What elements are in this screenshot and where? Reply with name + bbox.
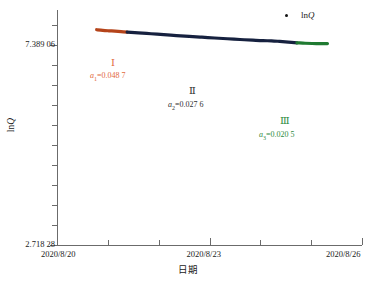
segment-1-slope-value: =0.048 7 — [97, 71, 126, 80]
series-segment-II — [127, 32, 297, 43]
x-tick-4 — [260, 240, 261, 245]
x-axis-line — [57, 245, 362, 246]
y-axis-title-variable: Q — [6, 118, 16, 125]
chart-container: 7.389 06 2.718 28 2020/8/20 2020/8/23 20… — [0, 0, 375, 284]
x-tick-1 — [108, 240, 109, 245]
x-tick-3 — [210, 238, 211, 245]
y-tick-8 — [52, 85, 57, 86]
segment-1-roman-numeral: Ⅰ — [111, 57, 115, 68]
x-tick-0 — [57, 238, 58, 245]
x-tick-5 — [311, 240, 312, 245]
legend: lnQ — [285, 10, 315, 20]
legend-label-variable: Q — [308, 10, 315, 20]
x-axis-title: 日期 — [0, 262, 375, 276]
y-tick-9 — [52, 65, 57, 66]
y-tick-6 — [52, 125, 57, 126]
y-tick-11 — [52, 25, 57, 26]
segment-3-slope-value: =0.020 5 — [266, 130, 295, 139]
x-tick-6 — [362, 238, 363, 245]
y-tick-1 — [52, 225, 57, 226]
x-tick-label-end: 2020/8/26 — [326, 249, 360, 259]
y-tick-3 — [52, 185, 57, 186]
y-tick-label-lower: 2.718 28 — [25, 239, 55, 249]
legend-marker-dot-icon — [285, 14, 288, 17]
y-axis-title-prefix: ln — [6, 125, 16, 132]
segment-3-roman-numeral: Ⅲ — [280, 115, 290, 126]
y-axis-line — [57, 10, 58, 246]
y-tick-4 — [52, 165, 57, 166]
segment-2-slope-label: a2=0.027 6 — [168, 100, 204, 111]
y-tick-2 — [52, 205, 57, 206]
segment-2-roman-numeral: Ⅱ — [189, 85, 196, 96]
x-tick-2 — [159, 240, 160, 245]
segment-3-slope-label: a3=0.020 5 — [259, 130, 295, 141]
x-tick-label-start: 2020/8/20 — [41, 249, 75, 259]
series-lnq — [97, 30, 328, 44]
series-segment-III — [297, 43, 328, 44]
segment-1-slope-label: a1=0.048 7 — [90, 71, 126, 82]
segment-2-slope-value: =0.027 6 — [175, 100, 204, 109]
legend-label: lnQ — [301, 10, 315, 20]
series-segment-I — [97, 30, 128, 32]
y-tick-7 — [52, 105, 57, 106]
y-axis-title: lnQ — [6, 105, 16, 145]
x-tick-label-mid: 2020/8/23 — [187, 249, 221, 259]
y-tick-label-upper: 7.389 06 — [25, 39, 55, 49]
legend-label-prefix: ln — [301, 10, 308, 20]
y-tick-5 — [52, 145, 57, 146]
